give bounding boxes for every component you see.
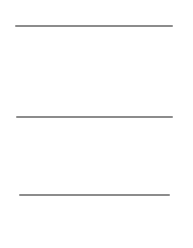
blank-page [0,0,193,248]
horizontal-rule-top [15,25,173,27]
horizontal-rule-bottom [19,194,170,196]
horizontal-rule-middle [16,116,173,118]
